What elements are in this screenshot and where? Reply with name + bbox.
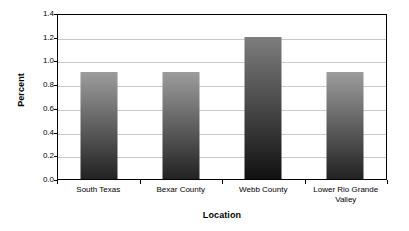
- x-axis-title: Location: [57, 210, 387, 220]
- bar-chart-figure: Percent 0.00.20.40.60.81.01.21.4 South T…: [0, 0, 409, 231]
- y-axis-title-text: Percent: [16, 73, 26, 107]
- bar-slot: [222, 15, 304, 179]
- y-axis-tick-label: 0.2: [30, 152, 54, 160]
- y-axis-tick-label: 0.8: [30, 81, 54, 89]
- plot-area: [57, 14, 387, 180]
- y-axis-tick-label: 0.6: [30, 105, 54, 113]
- y-axis-title: Percent: [14, 0, 28, 180]
- x-axis-tick-label: Lower Rio Grande Valley: [305, 185, 388, 205]
- bar[interactable]: [81, 72, 118, 179]
- x-axis-tick-label: Bexar County: [140, 185, 223, 205]
- y-axis-tick-label: 1.4: [30, 10, 54, 18]
- y-axis-tick-label: 0.0: [30, 176, 54, 184]
- bar-slot: [58, 15, 140, 179]
- bar-slot: [304, 15, 386, 179]
- bar-slot: [140, 15, 222, 179]
- bar-series: [58, 15, 386, 179]
- x-axis-tick-mark: [222, 180, 223, 184]
- x-axis-tick-labels: South TexasBexar CountyWebb CountyLower …: [57, 185, 387, 205]
- y-axis-tick-label: 1.0: [30, 57, 54, 65]
- x-axis-tick-mark: [387, 180, 388, 184]
- bar[interactable]: [163, 72, 200, 179]
- x-axis-tick-mark: [57, 180, 58, 184]
- y-axis-tick-labels: 0.00.20.40.60.81.01.21.4: [30, 14, 54, 180]
- x-axis-tick-label: Webb County: [222, 185, 305, 205]
- x-axis-tick-label: South Texas: [57, 185, 140, 205]
- bar[interactable]: [327, 72, 364, 179]
- y-axis-tick-label: 1.2: [30, 34, 54, 42]
- x-axis-tick-marks: [57, 180, 387, 184]
- bar[interactable]: [245, 37, 282, 179]
- y-axis-tick-label: 0.4: [30, 129, 54, 137]
- x-axis-tick-mark: [140, 180, 141, 184]
- x-axis-tick-mark: [305, 180, 306, 184]
